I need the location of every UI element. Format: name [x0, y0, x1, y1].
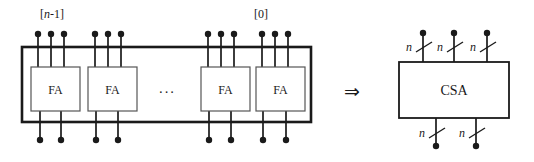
csa-figure: [n-1] [0]: [0, 0, 534, 162]
csa-output-bus-1: n: [459, 118, 485, 149]
fa-cell-1[interactable]: FA: [88, 67, 137, 111]
input-bit-group-3: [259, 31, 291, 67]
fa-cell-label: FA: [218, 83, 233, 97]
bus-terminal-dot: [433, 143, 439, 149]
fa-cell-label: FA: [48, 83, 63, 97]
bus-width-label: n: [470, 40, 476, 54]
fa-cell-label: FA: [273, 83, 288, 97]
bus-width-label: n: [406, 40, 412, 54]
bus-width-slash-icon: [416, 42, 432, 52]
msb-index-n: n: [44, 7, 50, 21]
input-terminal-dot: [61, 31, 67, 37]
input-terminal-dot: [105, 31, 111, 37]
output-bit-group-1: [93, 111, 121, 143]
fa-cells-ellipsis: ···: [159, 85, 176, 100]
bus-terminal-dot: [451, 30, 457, 36]
input-bit-group-1: [92, 31, 124, 67]
left-diagram-group: [n-1] [0]: [22, 7, 311, 143]
csa-input-bus-0: n: [406, 30, 432, 62]
output-bit-group-0: [37, 111, 64, 143]
bus-width-slash-icon: [469, 128, 485, 138]
output-bit-group-3: [260, 111, 289, 143]
bus-width-label: n: [419, 126, 425, 140]
output-terminal-dot: [283, 137, 289, 143]
fa-cell-0[interactable]: FA: [31, 67, 80, 111]
output-terminal-dot: [206, 137, 212, 143]
input-terminal-dot: [35, 31, 41, 37]
output-terminal-dot: [115, 137, 121, 143]
output-terminal-dot: [58, 137, 64, 143]
csa-figure-svg: [n-1] [0]: [0, 0, 534, 162]
output-terminal-dot: [228, 137, 234, 143]
fa-cell-3[interactable]: FA: [256, 67, 305, 111]
csa-output-bus-0: n: [419, 118, 445, 149]
input-terminal-dot: [285, 31, 291, 37]
bus-width-slash-icon: [447, 42, 463, 52]
fa-cell-2[interactable]: FA: [201, 67, 250, 111]
output-terminal-dot: [93, 137, 99, 143]
output-terminal-dot: [37, 137, 43, 143]
fa-cell-label: FA: [105, 83, 120, 97]
input-terminal-dot: [259, 31, 265, 37]
bus-width-slash-icon: [429, 128, 445, 138]
lsb-index-label: [0]: [254, 7, 268, 21]
msb-index-label: [n-1]: [40, 7, 64, 21]
bus-terminal-dot: [484, 30, 490, 36]
bus-width-label: n: [437, 40, 443, 54]
csa-block[interactable]: CSA: [399, 62, 509, 118]
output-terminal-dot: [260, 137, 266, 143]
csa-block-label: CSA: [440, 83, 468, 98]
input-terminal-dot: [48, 31, 54, 37]
input-terminal-dot: [218, 31, 224, 37]
input-terminal-dot: [272, 31, 278, 37]
input-terminal-dot: [205, 31, 211, 37]
output-bit-group-2: [206, 111, 234, 143]
bus-terminal-dot: [420, 30, 426, 36]
bus-width-slash-icon: [480, 42, 496, 52]
input-terminal-dot: [118, 31, 124, 37]
csa-input-bus-2: n: [470, 30, 496, 62]
input-bit-group-2: [205, 31, 237, 67]
csa-input-bus-1: n: [437, 30, 463, 62]
input-terminal-dot: [231, 31, 237, 37]
bus-terminal-dot: [473, 143, 479, 149]
implies-arrow: ⇒: [344, 80, 360, 102]
right-diagram-group: n n n n: [399, 30, 509, 149]
input-bit-group-0: [35, 31, 67, 67]
bus-width-label: n: [459, 126, 465, 140]
input-terminal-dot: [92, 31, 98, 37]
